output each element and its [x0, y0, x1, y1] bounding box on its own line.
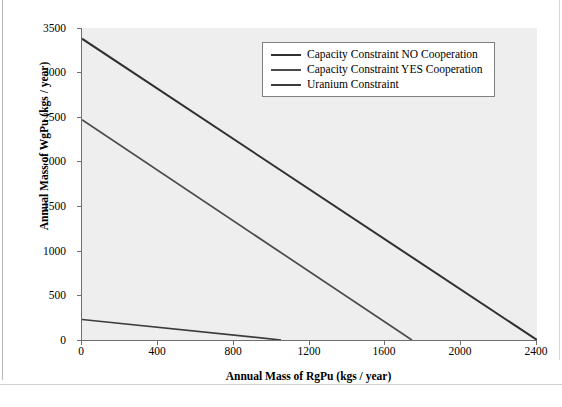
legend-item-label: Capacity Constraint NO Cooperation: [307, 48, 478, 61]
series-line-uranium-constraint: [82, 319, 281, 340]
x-tick-label: 1600: [373, 345, 396, 357]
legend-item-capacity-no-cooperation[interactable]: Capacity Constraint NO Cooperation: [267, 47, 490, 62]
legend-line-swatch-icon: [271, 64, 301, 75]
x-tick-label: 0: [78, 345, 84, 357]
page-right-rule: [559, 0, 560, 360]
page-bottom-rule: [0, 384, 562, 385]
x-tick-label: 2400: [525, 345, 548, 357]
chart-figure: 3500 3000 2500 2000 1500 1000 500 0 0: [0, 0, 562, 407]
x-tick-label: 2000: [449, 345, 472, 357]
y-tick-label: 500: [49, 289, 66, 301]
y-axis-title: Annual Mass of WgPu (kgs / year): [38, 16, 50, 276]
legend-item-label: Uranium Constraint: [307, 78, 399, 91]
legend-item-capacity-yes-cooperation[interactable]: Capacity Constraint YES Cooperation: [267, 62, 490, 77]
x-tick-label: 1200: [298, 345, 321, 357]
legend-item-label: Capacity Constraint YES Cooperation: [307, 63, 483, 76]
x-axis-tick-labels: 0 400 800 1200 1600 2000 2400: [0, 345, 562, 365]
x-axis-title: Annual Mass of RgPu (kgs / year): [81, 370, 536, 382]
chart-legend: Capacity Constraint NO Cooperation Capac…: [262, 42, 495, 97]
x-tick-label: 400: [148, 345, 165, 357]
x-tick-label: 800: [224, 345, 241, 357]
legend-line-swatch-icon: [271, 49, 301, 60]
legend-item-uranium-constraint[interactable]: Uranium Constraint: [267, 77, 490, 92]
legend-line-swatch-icon: [271, 79, 301, 90]
series-line-capacity-yes-cooperation: [82, 120, 412, 340]
